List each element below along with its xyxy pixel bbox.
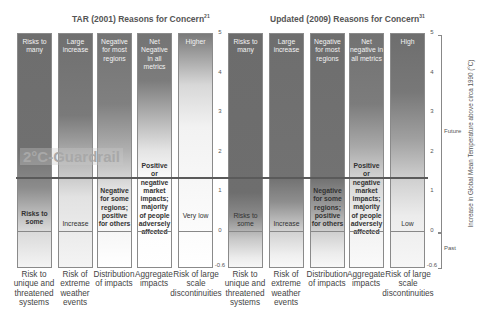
updated-category-extreme-weather: Risk of extreme weather events	[263, 270, 309, 308]
zero-line	[391, 231, 424, 232]
bar-low-label: Low	[391, 220, 424, 228]
zero-line	[18, 231, 51, 232]
bar-top-label: Higher	[179, 38, 212, 46]
updated-category-discontinuities: Risk of large scale discontinuities	[381, 270, 435, 298]
updated-bar-extreme-weather: Large increase Increase	[269, 33, 304, 268]
bar-top-label: High	[391, 38, 424, 46]
tar-tick-4: 4	[212, 69, 228, 75]
updated-title-text: Updated (2009) Reasons for Concern	[270, 14, 419, 24]
tar-tick-0: 0	[212, 227, 228, 233]
past-bracket	[438, 233, 442, 269]
tar-tick-1: 1	[212, 187, 228, 193]
bar-low-label: Positive or negative market impacts; maj…	[138, 162, 171, 237]
bar-low-label: Increase	[59, 220, 92, 228]
bar-low-label: Very low	[179, 212, 212, 220]
tar-category-discontinuities: Risk of large scale discontinuities	[169, 270, 223, 298]
bar-top-label: Negative for most regions	[311, 38, 344, 63]
bar-low-label: Risks to some	[18, 210, 51, 227]
bar-top-label: Negative for most regions	[98, 38, 131, 63]
zero-line	[179, 231, 212, 232]
tar-title-ref: 21	[204, 13, 210, 19]
bar-low-label: Increase	[270, 220, 303, 228]
updated-bar-discontinuities: High Low	[390, 33, 425, 268]
tar-tick-3: 3	[212, 108, 228, 114]
zero-line	[311, 231, 344, 232]
future-label: Future	[444, 128, 461, 134]
bar-top-label: Risks to many	[18, 38, 51, 55]
tar-title-text: TAR (2001) Reasons for Concern	[72, 14, 204, 24]
zero-line	[59, 231, 92, 232]
bar-low-label: Negative for some regions; positive for …	[98, 187, 131, 228]
updated-bar-unique-systems: Risks to many Risks to some	[228, 33, 263, 268]
updated-bar-distribution: Negative for most regions Negative for s…	[310, 33, 345, 268]
tar-panel-title: TAR (2001) Reasons for Concern21	[72, 13, 210, 24]
past-label: Past	[444, 245, 456, 251]
y-axis-label: Increase in Global Mean Temperature abov…	[467, 59, 474, 229]
bar-top-label: Net Negative in all metrics	[138, 38, 171, 71]
updated-bar-aggregate: Net negative in all metrics Positive or …	[349, 33, 384, 268]
guardrail-label: 2°C-Guardrail	[20, 148, 123, 165]
updated-category-unique-systems: Risk to unique and threatened systems	[222, 270, 268, 308]
bar-top-label: Large increase	[270, 38, 303, 55]
tar-bar-discontinuities: Higher Very low	[178, 33, 213, 268]
bar-top-label: Risks to many	[229, 38, 262, 55]
zero-line	[270, 231, 303, 232]
bar-low-label: Positive or negative market impacts; maj…	[350, 162, 383, 237]
updated-title-ref: 31	[419, 13, 425, 19]
zero-line	[98, 231, 131, 232]
tar-tick-neg0.6: -0.6	[212, 262, 228, 268]
guardrail-line	[16, 177, 428, 179]
bar-low-label: Negative for some regions; positive for …	[311, 187, 344, 228]
tar-tick-5: 5	[212, 29, 228, 35]
tar-tick-2: 2	[212, 148, 228, 154]
bar-top-label: Net negative in all metrics	[350, 38, 383, 63]
tar-category-unique-systems: Risk to unique and threatened systems	[11, 270, 57, 308]
bar-top-label: Large increase	[59, 38, 92, 55]
future-bracket	[438, 35, 442, 233]
updated-panel-title: Updated (2009) Reasons for Concern31	[270, 13, 425, 24]
zero-line	[350, 231, 383, 232]
bar-low-label: Risks to some	[229, 212, 262, 229]
zero-line	[138, 231, 171, 232]
zero-line	[229, 231, 262, 232]
tar-bar-aggregate: Net Negative in all metrics Positive or …	[137, 33, 172, 268]
